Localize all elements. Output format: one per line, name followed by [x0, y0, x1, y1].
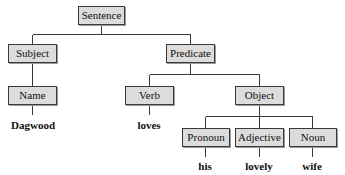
node-predicate: Predicate [166, 44, 215, 63]
node-name: Name [8, 86, 57, 105]
node-adjective: Adjective [235, 128, 284, 147]
leaf-loves: loves [137, 119, 160, 131]
node-noun: Noun [289, 128, 337, 147]
node-pronoun: Pronoun [182, 128, 230, 147]
node-verb: Verb [125, 86, 174, 105]
leaf-dagwood: Dagwood [11, 119, 55, 131]
leaf-his: his [198, 160, 211, 172]
node-object: Object [235, 86, 284, 105]
node-subject: Subject [8, 44, 57, 63]
leaf-wife: wife [302, 160, 322, 172]
leaf-lovely: lovely [245, 160, 273, 172]
parse-tree-diagram: Sentence Subject Predicate Name Verb Obj… [0, 0, 345, 175]
node-sentence: Sentence [78, 6, 125, 25]
